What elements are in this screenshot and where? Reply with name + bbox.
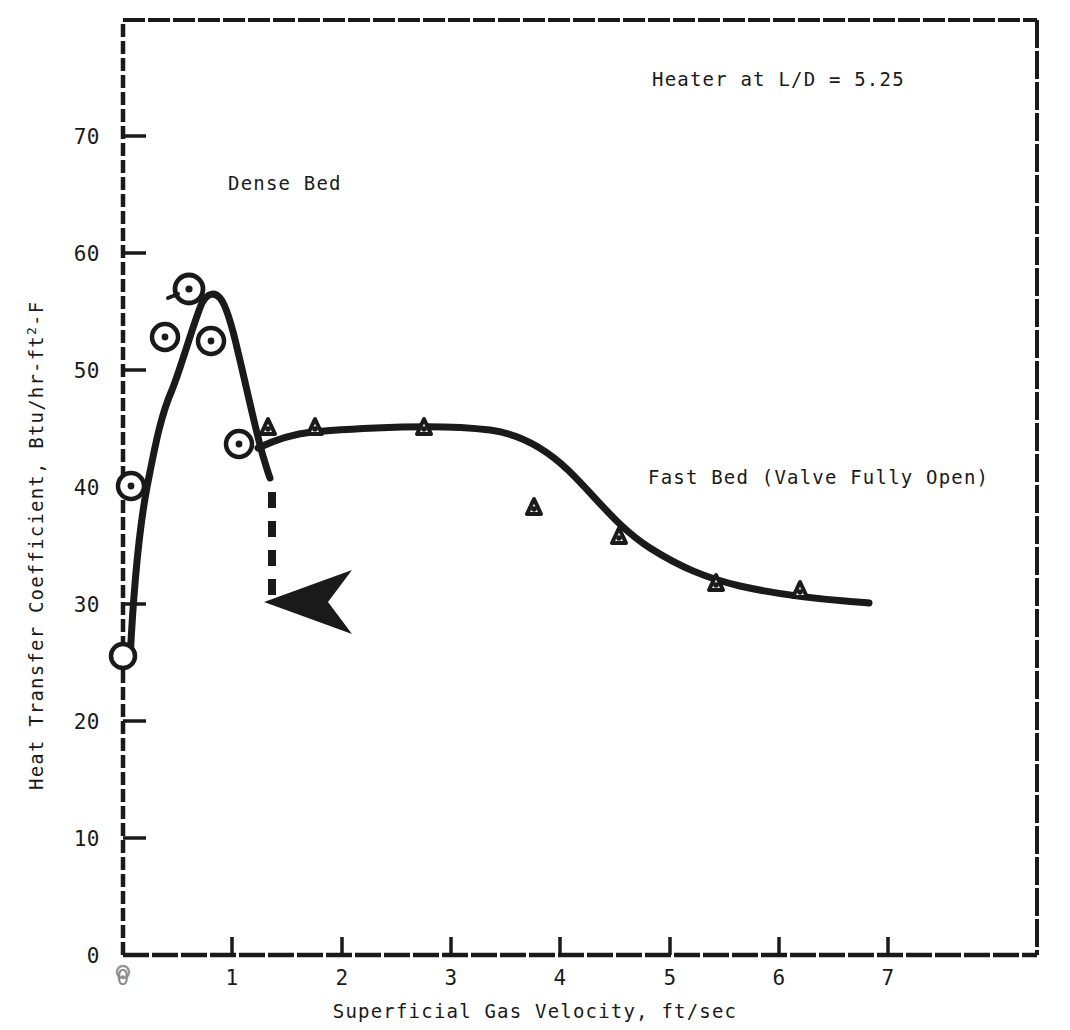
y-tick-label-50: 50 xyxy=(40,359,100,383)
annotation-fast-bed: Fast Bed (Valve Fully Open) xyxy=(648,466,989,488)
marker-open-circle xyxy=(111,644,135,668)
marker-triangle-dot xyxy=(793,582,807,597)
x-axis-title-text: Superficial Gas Velocity, ft/sec xyxy=(333,1000,737,1022)
y-tick-label-60: 60 xyxy=(40,242,100,266)
plot-canvas xyxy=(0,0,1070,1030)
annotation-heater-note: Heater at L/D = 5.25 xyxy=(652,68,905,90)
x-tick-label-2: 2 xyxy=(322,966,362,990)
marker-circle-dot xyxy=(198,328,224,354)
y-tick-label-20: 20 xyxy=(40,710,100,734)
fast-bed-curve xyxy=(258,427,869,603)
marker-circle-dot xyxy=(118,473,144,499)
x-tick-label-1: 1 xyxy=(212,966,252,990)
marker-triangle-dot xyxy=(417,419,431,434)
x-tick-marks xyxy=(232,937,888,955)
x-tick-label-5: 5 xyxy=(650,966,690,990)
y-tick-label-0: 0 xyxy=(40,944,100,968)
x-tick-label-3: 3 xyxy=(431,966,471,990)
marker-circle-dot xyxy=(226,431,252,457)
chart-figure: 70 60 50 40 30 20 10 0 0 1 2 3 4 5 6 7 H… xyxy=(0,0,1070,1030)
y-tick-label-70: 70 xyxy=(40,125,100,149)
y-tick-label-10: 10 xyxy=(40,827,100,851)
y-axis-title: Heat Transfer Coefficient, Btu/hr-ft2-F xyxy=(24,301,47,790)
x-axis-title: Superficial Gas Velocity, ft/sec xyxy=(0,1000,1070,1022)
x-tick-label-4: 4 xyxy=(540,966,580,990)
y-axis-title-suffix: -F xyxy=(25,301,47,326)
x-tick-label-6: 6 xyxy=(759,966,799,990)
y-tick-label-40: 40 xyxy=(40,476,100,500)
marker-circle-dot xyxy=(152,324,178,350)
y-axis-title-superscript: 2 xyxy=(24,326,39,335)
marker-triangle-dot xyxy=(261,419,275,434)
marker-triangle-dot xyxy=(527,499,541,514)
marker-triangle-dot xyxy=(308,419,322,434)
y-axis-title-prefix: Heat Transfer Coefficient, Btu/hr-ft xyxy=(25,335,47,790)
annotation-dense-bed: Dense Bed xyxy=(228,172,342,194)
marker-circle-dot xyxy=(175,275,203,303)
y-tick-label-30: 30 xyxy=(40,593,100,617)
x-tick-label-0: 0 xyxy=(103,966,143,990)
x-tick-label-7: 7 xyxy=(868,966,908,990)
